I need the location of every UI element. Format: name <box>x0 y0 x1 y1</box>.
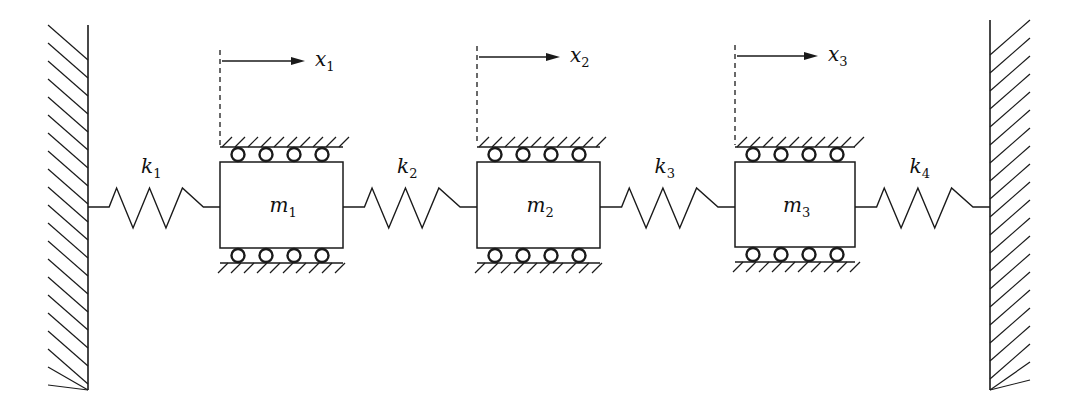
displacement-arrow-m2: x2 <box>477 43 590 145</box>
roller-icon <box>288 148 301 161</box>
displacement-label-m3: x3 <box>828 42 848 69</box>
roller-icon <box>803 148 816 161</box>
roller-icon <box>517 148 530 161</box>
right-wall <box>990 20 1030 390</box>
roller-icon <box>489 148 502 161</box>
displacement-arrow-m3: x3 <box>735 42 848 145</box>
spring-k4: k4 <box>855 154 990 228</box>
roller-icon <box>747 148 760 161</box>
displacement-label-m2: x2 <box>570 43 590 70</box>
roller-icon <box>232 249 245 262</box>
arrow-head-icon <box>291 57 305 65</box>
roller-icon <box>775 148 788 161</box>
spring-label-k3: k3 <box>655 154 675 181</box>
displacement-arrow-m1: x1 <box>220 47 335 145</box>
spring-mass-diagram: k1k2k3k4 m1x1m2x2m3x3 <box>0 0 1069 411</box>
bottom-guide <box>218 263 345 273</box>
spring-k1: k1 <box>88 154 220 228</box>
arrow-head-icon <box>546 53 560 61</box>
roller-icon <box>316 148 329 161</box>
roller-icon <box>573 249 586 262</box>
bottom-guide <box>733 262 860 272</box>
left-wall <box>48 25 88 390</box>
roller-icon <box>803 248 816 261</box>
roller-icon <box>316 249 329 262</box>
bottom-guide <box>475 263 602 273</box>
spring-k2: k2 <box>343 154 477 228</box>
spring-label-k1: k1 <box>141 154 161 181</box>
top-guide <box>735 137 864 147</box>
spring-label-k2: k2 <box>397 154 417 181</box>
displacement-label-m1: x1 <box>315 47 335 74</box>
mass-m3: m3x3 <box>733 42 864 272</box>
roller-icon <box>775 248 788 261</box>
masses: m1x1m2x2m3x3 <box>218 42 864 273</box>
roller-icon <box>573 148 586 161</box>
roller-icon <box>517 249 530 262</box>
spring-label-k4: k4 <box>910 154 930 181</box>
roller-icon <box>260 148 273 161</box>
arrow-head-icon <box>804 52 818 60</box>
roller-icon <box>831 248 844 261</box>
roller-icon <box>747 248 760 261</box>
roller-icon <box>545 148 558 161</box>
roller-icon <box>545 249 558 262</box>
roller-icon <box>288 249 301 262</box>
roller-icon <box>232 148 245 161</box>
mass-m2: m2x2 <box>475 43 606 273</box>
roller-icon <box>831 148 844 161</box>
spring-k3: k3 <box>600 154 735 228</box>
roller-icon <box>489 249 502 262</box>
top-guide <box>220 137 349 147</box>
roller-icon <box>260 249 273 262</box>
mass-m1: m1x1 <box>218 47 349 273</box>
top-guide <box>477 137 606 147</box>
